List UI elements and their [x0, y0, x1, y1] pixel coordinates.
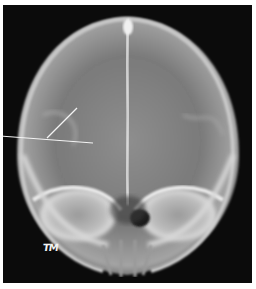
midline	[127, 19, 128, 205]
xray-image: TM	[3, 5, 252, 283]
skull-radiograph	[3, 5, 252, 283]
film-marker: TM	[42, 242, 58, 253]
